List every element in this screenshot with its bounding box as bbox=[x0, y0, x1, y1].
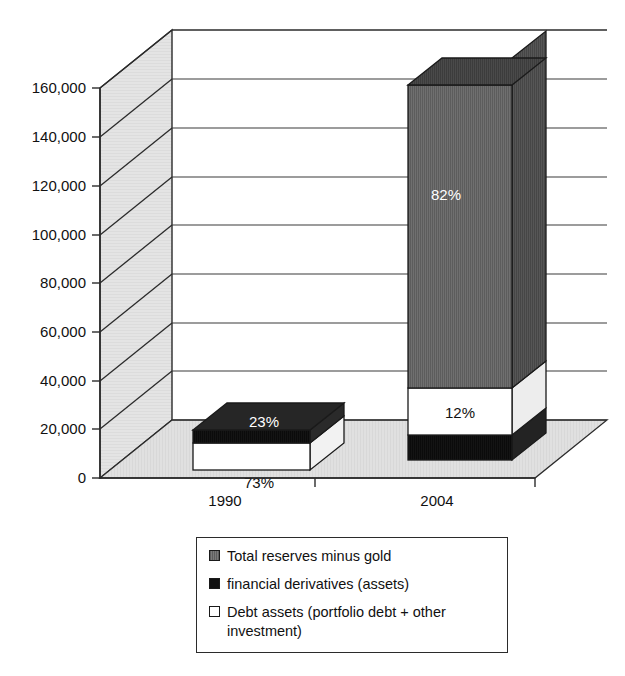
chart-side-wall bbox=[100, 30, 172, 478]
chart-container: 160,000 140,000 120,000 100,000 80,000 6… bbox=[0, 0, 625, 676]
y-tick-label: 0 bbox=[78, 469, 86, 486]
legend-label: financial derivatives (assets) bbox=[227, 575, 409, 594]
y-axis-tick-labels: 160,000 140,000 120,000 100,000 80,000 6… bbox=[32, 79, 86, 486]
x-axis-tick-labels: 1990 2004 bbox=[208, 492, 453, 509]
x-axis bbox=[100, 478, 535, 487]
legend-item-debt-assets[interactable]: Debt assets (portfolio debt + other inve… bbox=[197, 603, 507, 641]
bar-segment-1990-debt-assets-front[interactable] bbox=[193, 443, 310, 470]
y-tick-label: 140,000 bbox=[32, 128, 86, 145]
chart-legend: Total reserves minus gold financial deri… bbox=[196, 537, 508, 653]
y-tick-label: 20,000 bbox=[40, 420, 86, 437]
y-tick-label: 100,000 bbox=[32, 226, 86, 243]
bar-label-2004-reserves: 82% bbox=[431, 186, 461, 203]
y-tick-label: 40,000 bbox=[40, 372, 86, 389]
legend-item-total-reserves[interactable]: Total reserves minus gold bbox=[197, 547, 507, 566]
y-tick-label: 160,000 bbox=[32, 79, 86, 96]
bar-segment-2004-reserves-front[interactable] bbox=[408, 85, 512, 388]
bar-label-2004-debt-assets: 12% bbox=[445, 404, 475, 421]
x-tick-label-2004: 2004 bbox=[420, 492, 453, 509]
legend-swatch-gray-icon bbox=[209, 550, 220, 561]
bar-segment-2004-reserves-side[interactable] bbox=[512, 31, 546, 388]
bar-segment-2004-derivatives-front[interactable] bbox=[408, 435, 512, 460]
y-axis bbox=[92, 88, 100, 478]
legend-swatch-black-icon bbox=[209, 578, 220, 589]
legend-item-financial-derivatives[interactable]: financial derivatives (assets) bbox=[197, 575, 507, 594]
y-tick-label: 60,000 bbox=[40, 323, 86, 340]
bar-label-1990-debt-assets: 73% bbox=[244, 474, 274, 491]
bar-group-2004[interactable]: 82% 12% bbox=[408, 31, 546, 460]
legend-label: Debt assets (portfolio debt + other inve… bbox=[227, 603, 499, 641]
y-tick-label: 80,000 bbox=[40, 274, 86, 291]
x-tick-label-1990: 1990 bbox=[208, 492, 241, 509]
legend-list: Total reserves minus gold financial deri… bbox=[197, 538, 507, 641]
legend-swatch-white-icon bbox=[209, 606, 220, 617]
y-tick-label: 120,000 bbox=[32, 177, 86, 194]
bar-label-1990-derivatives: 23% bbox=[249, 413, 279, 430]
legend-label: Total reserves minus gold bbox=[227, 547, 391, 566]
bar-segment-1990-derivatives-front[interactable] bbox=[193, 430, 310, 443]
